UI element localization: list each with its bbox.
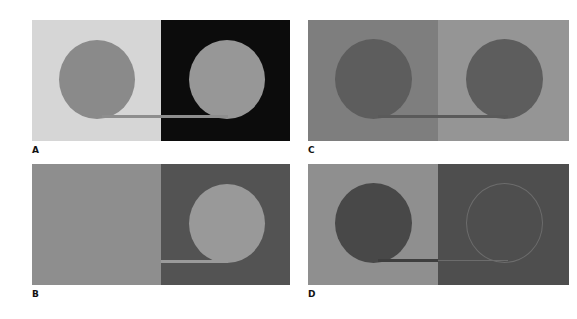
panel-a <box>32 20 290 141</box>
panel-b-connecting-bar <box>161 260 228 263</box>
panel-a-left-circle <box>59 40 135 119</box>
panel-d-label: D <box>308 289 315 299</box>
panel-c-left-circle <box>335 39 412 119</box>
panel-d <box>308 164 569 285</box>
panel-a-label: A <box>32 145 39 155</box>
panel-c-right-circle <box>466 39 543 119</box>
panel-a-right-circle <box>189 40 265 119</box>
panel-d-connecting-bar <box>378 259 438 262</box>
panel-c-label: C <box>308 145 315 155</box>
panel-b-right-circle <box>189 184 265 263</box>
panel-a-connecting-bar <box>102 115 228 118</box>
panel-d-left-circle <box>335 183 412 263</box>
panel-b-left-background <box>32 164 161 285</box>
panel-b-label: B <box>32 289 39 299</box>
panel-c-connecting-bar <box>378 115 508 118</box>
panel-c <box>308 20 569 141</box>
panel-d-right-circle-outline <box>466 183 543 263</box>
panel-d-connecting-bar-right <box>438 260 508 261</box>
panel-b <box>32 164 290 285</box>
